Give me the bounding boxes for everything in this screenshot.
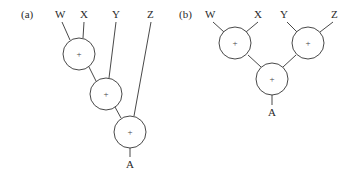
diagram-canvas: (a) W X Y Z + + + A (b) — [0, 0, 353, 177]
edge-w-to-b1 — [213, 22, 224, 32]
input-label-x: X — [80, 8, 88, 20]
input-label-y: Y — [280, 8, 288, 20]
input-label-w: W — [55, 8, 66, 20]
edge-x-to-a1 — [83, 22, 84, 38]
adder-node-a2: + — [90, 78, 122, 110]
edge-a2-to-a3 — [115, 107, 121, 118]
panel-a-tag: (a) — [21, 8, 34, 21]
edge-z-to-a3 — [134, 22, 151, 116]
input-label-z: Z — [147, 8, 154, 20]
edge-b2-to-b3 — [283, 55, 296, 67]
adder-node-a1: + — [63, 38, 95, 70]
input-label-z: Z — [331, 8, 338, 20]
adder-node-b3: + — [256, 63, 288, 95]
plus-sign: + — [269, 74, 274, 84]
output-label-a: A — [126, 158, 134, 170]
edge-b1-to-b3 — [248, 55, 261, 67]
output-label-a: A — [268, 106, 276, 118]
input-label-w: W — [205, 8, 216, 20]
edge-y-to-b2 — [287, 22, 297, 32]
panel-b: (b) W X Y Z + + + A — [179, 8, 338, 118]
adder-node-b1: + — [219, 27, 251, 59]
input-label-x: X — [254, 8, 262, 20]
adder-node-b2: + — [292, 27, 324, 59]
adder-node-a3: + — [114, 116, 146, 148]
plus-sign: + — [305, 38, 310, 48]
input-label-y: Y — [112, 8, 120, 20]
plus-sign: + — [76, 49, 81, 59]
edge-a1-to-a2 — [89, 67, 96, 81]
panel-a: (a) W X Y Z + + + A — [21, 8, 154, 170]
edge-z-to-b2 — [320, 22, 333, 32]
plus-sign: + — [103, 89, 108, 99]
panel-b-tag: (b) — [179, 8, 192, 21]
plus-sign: + — [232, 38, 237, 48]
plus-sign: + — [127, 127, 132, 137]
edge-w-to-a1 — [62, 22, 70, 40]
edge-y-to-a2 — [109, 22, 116, 78]
edge-x-to-b1 — [246, 22, 258, 32]
